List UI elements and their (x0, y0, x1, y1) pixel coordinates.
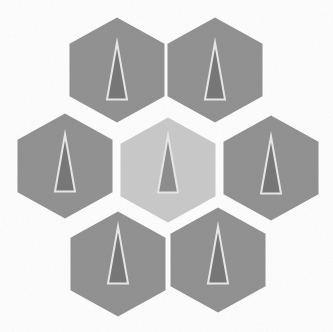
scan-grain-overlay (0, 0, 333, 332)
hexagon-honeycomb-canvas (0, 0, 333, 332)
hex-pattern-figure (0, 0, 333, 332)
